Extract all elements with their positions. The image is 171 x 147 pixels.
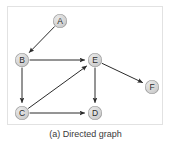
graph-frame bbox=[7, 6, 163, 125]
graph-node-c[interactable]: C bbox=[15, 106, 29, 120]
graph-node-e[interactable]: E bbox=[88, 53, 102, 67]
graph-node-b[interactable]: B bbox=[15, 53, 29, 67]
node-label-e: E bbox=[88, 53, 102, 67]
node-label-b: B bbox=[15, 53, 29, 67]
graph-node-a[interactable]: A bbox=[53, 14, 67, 28]
graph-node-d[interactable]: D bbox=[88, 106, 102, 120]
node-label-a: A bbox=[53, 14, 67, 28]
graph-node-f[interactable]: F bbox=[145, 80, 159, 94]
node-label-d: D bbox=[88, 106, 102, 120]
directed-graph-figure: ABCDEF (a) Directed graph bbox=[0, 0, 171, 147]
node-label-f: F bbox=[145, 80, 159, 94]
node-label-c: C bbox=[15, 106, 29, 120]
figure-caption: (a) Directed graph bbox=[0, 129, 171, 139]
